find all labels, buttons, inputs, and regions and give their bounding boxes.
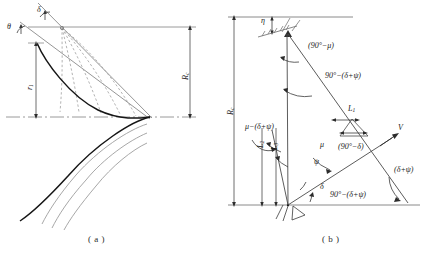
- panel-b-V-arrow-head: [392, 133, 399, 139]
- panel-a-rc-label: Rc: [182, 73, 190, 80]
- panel-b-rc-subscript: c: [229, 108, 235, 110]
- panel-b-mu-label: μ: [320, 141, 324, 149]
- panel-a-parallel-curve-2: [52, 133, 147, 228]
- panel-a-dashed-fan: [60, 28, 136, 116]
- panel-a-parallel-curve-3: [64, 143, 147, 230]
- figure-root: θ δ r1 Rc ( a ) η Rc (90°−μ) 90°−(δ+ψ) μ…: [0, 0, 427, 258]
- panel-b-hypotenuse-line: [288, 34, 408, 203]
- panel-b-apex-top-marker: [284, 30, 292, 37]
- panel-b-angle-90-minus-delta-psi-bottom-label: 90°−(δ+ψ): [330, 191, 366, 199]
- panel-a-upper-incline: [38, 3, 152, 118]
- panel-b-L2-label: L2: [257, 141, 265, 148]
- panel-b-L3-base: L: [270, 146, 279, 150]
- panel-a-r1-label: r1: [26, 84, 34, 90]
- panel-b-L1-arrow-right: [363, 131, 368, 135]
- panel-b-L3-subscript: 3: [273, 143, 279, 146]
- panel-a-parallel-curve-1: [42, 124, 147, 224]
- panel-a-delta-label: δ: [37, 6, 41, 14]
- panel-b-L3-label: L3: [271, 143, 279, 150]
- panel-b-L2-base: L: [256, 144, 265, 148]
- panel-b-angle-90-minus-delta-label: (90°−δ): [338, 143, 364, 151]
- panel-b-L2-line: [272, 130, 288, 205]
- panel-b-top-tick-b: [292, 20, 300, 31]
- panel-b-eta-label: η: [261, 17, 265, 25]
- panel-b-angle-delta-plus-psi-label: (δ+ψ): [394, 166, 413, 174]
- panel-b-caption: ( b ): [322, 234, 340, 244]
- panel-a-lower-incline: [20, 22, 150, 119]
- panel-b-top-surface-line: [258, 26, 297, 37]
- panel-b-L1-label: L1: [348, 105, 355, 113]
- panel-a-rc-base: R: [181, 75, 190, 80]
- panel-b-upper-pair-arrow-right: [355, 118, 360, 122]
- panel-b-rc-base: R: [226, 110, 235, 115]
- panel-b-angle-90-minus-mu-label: (90°−μ): [308, 42, 334, 50]
- panel-b-angle-mu-minus-delta-psi-label: μ−(δ+ψ): [245, 123, 274, 131]
- panel-b-rc-label: Rc: [227, 108, 235, 115]
- panel-b-arc-delta: [300, 182, 306, 190]
- panel-b-arc-90-minus-delta-psi-top: [284, 90, 312, 97]
- panel-b-L2-subscript: 2: [259, 141, 265, 144]
- panel-b-psi-label: ψ: [314, 158, 319, 166]
- panel-a-main-curve-lower: [20, 117, 150, 221]
- panel-a-r1-subscript: 1: [28, 84, 34, 87]
- panel-b-arc-bottom-head: [309, 192, 314, 197]
- panel-a-graphics: [0, 0, 427, 258]
- panel-b-upper-pair-arrow-left: [331, 118, 336, 122]
- panel-a-r1-base: r: [25, 87, 34, 90]
- panel-b-L1-subscript: 1: [352, 107, 355, 113]
- panel-a-theta-arrow-head: [19, 24, 23, 28]
- panel-a-rc-subscript: c: [184, 73, 190, 75]
- panel-a-caption: ( a ): [88, 234, 105, 244]
- panel-b-V-label: V: [398, 124, 403, 132]
- panel-b-apex-hatching: [276, 205, 305, 221]
- panel-b-delta-label: δ: [320, 183, 324, 191]
- panel-b-L3-line: [287, 34, 288, 205]
- panel-b-angle-90-minus-delta-psi-top-label: 90°−(δ+ψ): [325, 72, 361, 80]
- panel-a-theta-label: θ: [7, 23, 11, 31]
